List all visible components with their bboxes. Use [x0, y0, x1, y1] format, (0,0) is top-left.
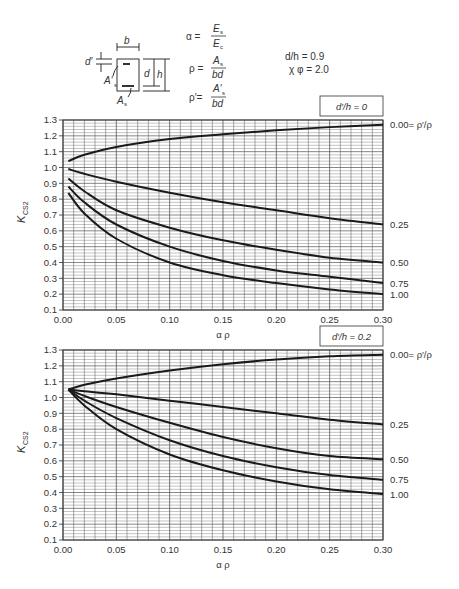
- y-axis-label: KCS2: [15, 431, 29, 453]
- y-axis: 0.10.20.30.40.50.60.70.80.91.01.11.21.3: [44, 344, 63, 545]
- y-tick-label: 0.5: [44, 241, 57, 252]
- svg-text:K: K: [15, 215, 27, 223]
- panel-title: d′/h = 0: [336, 101, 368, 112]
- y-tick-label: 1.2: [44, 130, 57, 141]
- label-as-sub: s: [124, 101, 127, 107]
- label-h: h: [157, 69, 163, 80]
- series-label-0.50: 0.50: [390, 257, 409, 268]
- definitions: α = E s E c ρ = A s bd ρ′= A′ s bd: [186, 23, 226, 109]
- series-line-0.50: [68, 390, 383, 460]
- y-tick-label: 1.0: [44, 162, 57, 173]
- series-label-0.00: 0.00= ρ′/ρ: [390, 119, 433, 130]
- y-tick-label: 0.7: [44, 439, 57, 450]
- x-tick-label: 0.15: [214, 314, 233, 325]
- param-dh: d/h = 0.9: [285, 51, 325, 62]
- y-tick-label: 0.2: [44, 518, 57, 529]
- y-tick-label: 1.0: [44, 392, 57, 403]
- label-d: d: [144, 68, 150, 79]
- y-tick-label: 0.2: [44, 288, 57, 299]
- x-axis-label: α ρ: [216, 329, 230, 340]
- y-tick-label: 0.9: [44, 178, 57, 189]
- x-axis-label: α ρ: [216, 559, 230, 570]
- series-label-0.25: 0.25: [390, 419, 409, 430]
- label-as: A: [116, 95, 124, 106]
- panel-title: d′/h = 0.2: [332, 331, 372, 342]
- label-as-prime-sub: s: [114, 82, 117, 88]
- label-as-prime: A′: [103, 75, 114, 86]
- chart-top: 0.10.20.30.40.50.60.70.80.91.01.11.21.30…: [15, 96, 433, 340]
- label-b: b: [124, 35, 130, 46]
- rhop-lhs: ρ′=: [189, 92, 203, 103]
- x-tick-label: 0.20: [267, 544, 286, 555]
- parameters: d/h = 0.9 χ φ = 2.0: [285, 51, 329, 75]
- svg-text:CS2: CS2: [22, 201, 29, 215]
- y-tick-label: 0.3: [44, 503, 57, 514]
- rho-lhs: ρ =: [189, 63, 203, 74]
- x-tick-label: 0.15: [214, 544, 233, 555]
- y-tick-label: 0.7: [44, 209, 57, 220]
- y-tick-label: 1.2: [44, 360, 57, 371]
- series-label-0.75: 0.75: [390, 278, 409, 289]
- x-tick-label: 0.05: [107, 544, 126, 555]
- x-tick-label: 0.25: [320, 314, 339, 325]
- alpha-num: E: [213, 23, 220, 34]
- series-group: 0.00= ρ′/ρ0.250.500.751.00: [68, 119, 432, 299]
- alpha-den-sub: c: [220, 44, 223, 50]
- series-label-0.25: 0.25: [390, 219, 409, 230]
- y-tick-label: 1.3: [44, 344, 57, 355]
- y-tick-label: 1.3: [44, 114, 57, 125]
- y-tick-label: 0.6: [44, 455, 57, 466]
- y-axis: 0.10.20.30.40.50.60.70.80.91.01.11.21.3: [44, 114, 63, 315]
- x-axis: 0.000.050.100.150.200.250.30: [54, 314, 393, 325]
- y-tick-label: 0.8: [44, 423, 57, 434]
- y-tick-label: 0.5: [44, 471, 57, 482]
- series-label-0.50: 0.50: [390, 454, 409, 465]
- y-tick-label: 0.3: [44, 273, 57, 284]
- rhop-den: bd: [212, 98, 224, 109]
- alpha-num-sub: s: [220, 29, 223, 35]
- rhop-num-sub: s: [222, 90, 225, 96]
- y-tick-label: 1.1: [44, 376, 57, 387]
- series-line-0.75: [68, 390, 383, 480]
- x-axis: 0.000.050.100.150.200.250.30: [54, 544, 393, 555]
- label-dprime: d′: [85, 56, 94, 67]
- series-label-0.75: 0.75: [390, 474, 409, 485]
- series-line-0.00: [68, 125, 383, 161]
- beam-section-labels: b d′ d h A′ s A s: [85, 35, 163, 107]
- x-tick-label: 0.10: [160, 544, 179, 555]
- series-group: 0.00= ρ′/ρ0.250.500.751.00: [68, 349, 432, 499]
- y-tick-label: 0.8: [44, 193, 57, 204]
- series-label-0.00: 0.00= ρ′/ρ: [390, 349, 433, 360]
- series-line-0.25: [68, 169, 383, 224]
- y-tick-label: 0.4: [44, 257, 57, 268]
- chart-bottom: 0.10.20.30.40.50.60.70.80.91.01.11.21.30…: [15, 326, 433, 570]
- x-tick-label: 0.05: [107, 314, 126, 325]
- y-axis-label: KCS2: [15, 201, 29, 223]
- series-line-0.75: [68, 187, 383, 284]
- alpha-den: E: [213, 38, 220, 49]
- y-tick-label: 0.6: [44, 225, 57, 236]
- x-tick-label: 0.00: [54, 314, 73, 325]
- param-xphi: χ φ = 2.0: [289, 64, 329, 75]
- x-tick-label: 0.20: [267, 314, 286, 325]
- rho-num-sub: s: [220, 61, 223, 67]
- y-tick-label: 1.1: [44, 146, 57, 157]
- figure-canvas: b d′ d h A′ s A s α = E s E c ρ = A s bd…: [0, 0, 459, 589]
- svg-text:K: K: [15, 445, 27, 453]
- rho-num: A: [212, 55, 220, 66]
- rho-den: bd: [212, 69, 224, 80]
- y-tick-label: 0.9: [44, 408, 57, 419]
- x-tick-label: 0.10: [160, 314, 179, 325]
- y-tick-label: 0.4: [44, 487, 57, 498]
- x-tick-label: 0.25: [320, 544, 339, 555]
- svg-text:CS2: CS2: [22, 431, 29, 445]
- series-label-1.00: 1.00: [390, 489, 409, 500]
- alpha-lhs: α =: [186, 31, 201, 42]
- series-label-1.00: 1.00: [390, 289, 409, 300]
- x-tick-label: 0.00: [54, 544, 73, 555]
- x-tick-label: 0.30: [374, 314, 393, 325]
- x-tick-label: 0.30: [374, 544, 393, 555]
